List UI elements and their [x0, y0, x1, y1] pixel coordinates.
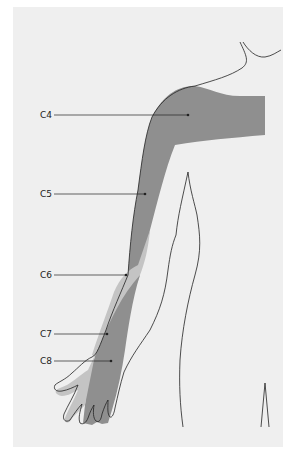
label-c6: C6 — [40, 270, 127, 280]
label-text-c5: C5 — [40, 189, 52, 199]
region-c4-c5 — [128, 86, 265, 275]
label-text-c4: C4 — [40, 110, 52, 120]
waist-outline — [261, 383, 269, 427]
label-text-c8: C8 — [40, 356, 52, 366]
region-c7-c8 — [83, 275, 140, 425]
dermatome-diagram: C4 C5 C6 C7 C8 — [0, 0, 296, 457]
label-text-c6: C6 — [40, 270, 52, 280]
label-text-c7: C7 — [40, 329, 52, 339]
torso-outline — [180, 172, 200, 427]
label-c5: C5 — [40, 189, 146, 199]
neck-outline — [243, 42, 281, 57]
